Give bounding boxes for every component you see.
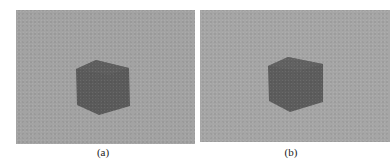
figure-panel-a: [16, 10, 195, 144]
cube-image-b: [200, 10, 390, 142]
caption-b: (b): [271, 146, 311, 158]
cube-image-a: [16, 10, 195, 144]
caption-a: (a): [83, 146, 123, 158]
figure-panel-b: [200, 10, 390, 142]
